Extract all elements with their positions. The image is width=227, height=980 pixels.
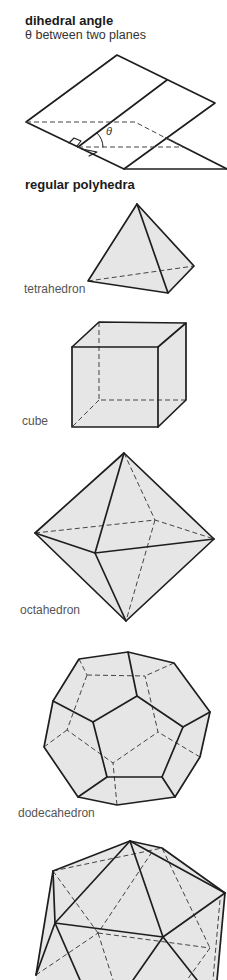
label-dodecahedron: dodecahedron (18, 806, 95, 820)
octahedron-figure (35, 453, 214, 621)
cube-figure (72, 322, 186, 427)
icosahedron-figure (36, 841, 225, 980)
tetrahedron-figure (88, 204, 194, 293)
label-cube: cube (22, 414, 48, 428)
label-tetrahedron: tetrahedron (24, 282, 85, 296)
dihedral-angle-figure (26, 55, 227, 169)
dodecahedron-figure (44, 652, 210, 805)
label-octahedron: octahedron (20, 603, 80, 617)
diagram-canvas (0, 0, 227, 980)
angle-theta-label: θ (106, 125, 112, 137)
polyhedra-title: regular polyhedra (25, 177, 135, 192)
